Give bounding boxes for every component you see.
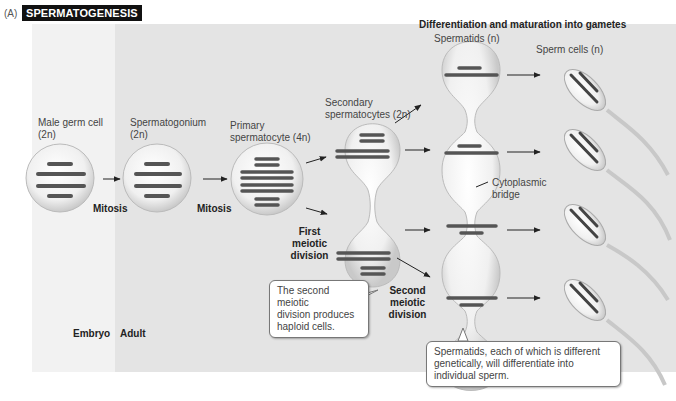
section-title: Differentiation and maturation into game… bbox=[419, 19, 626, 31]
spermatogonium-cell bbox=[123, 144, 191, 212]
label-spermatids: Spermatids (n) bbox=[434, 33, 500, 45]
label-line: meiotic bbox=[287, 238, 332, 250]
label-line: spermatocyte (4n) bbox=[230, 132, 311, 144]
label-line: First bbox=[287, 226, 332, 238]
label-line: bridge bbox=[492, 189, 546, 201]
sperm-cells bbox=[557, 62, 670, 385]
callout-second-division: The second meiotic division produces hap… bbox=[269, 280, 369, 338]
label-mitosis-2: Mitosis bbox=[197, 203, 231, 215]
label-line: (2n) bbox=[130, 129, 206, 141]
arrow-meiosis1-lower bbox=[306, 208, 327, 214]
callout-line: The second meiotic bbox=[277, 285, 361, 309]
label-spermatogonium: Spermatogonium (2n) bbox=[130, 117, 206, 141]
male-germ-cell bbox=[26, 144, 94, 212]
label-line: Spermatogonium bbox=[130, 117, 206, 129]
arrow-meiosis2-d bbox=[397, 258, 430, 277]
label-male-germ-cell: Male germ cell (2n) bbox=[38, 117, 103, 141]
label-adult: Adult bbox=[120, 328, 146, 340]
label-line: division bbox=[385, 309, 430, 321]
label-line: Secondary bbox=[325, 97, 411, 109]
label-line: Primary bbox=[230, 120, 311, 132]
callout-line: genetically, will differentiate into bbox=[434, 358, 613, 370]
callout-line: Spermatids, each of which is different bbox=[434, 346, 613, 358]
label-line: Male germ cell bbox=[38, 117, 103, 129]
spermatids-cells bbox=[442, 42, 500, 391]
label-cytoplasmic-bridge: Cytoplasmic bridge bbox=[492, 177, 546, 201]
label-secondary-spermatocytes: Secondary spermatocytes (2n) bbox=[325, 97, 411, 121]
label-primary-spermatocyte: Primary spermatocyte (4n) bbox=[230, 120, 311, 144]
primary-spermatocyte-cell bbox=[231, 143, 303, 215]
label-line: Second bbox=[385, 285, 430, 297]
label-embryo: Embryo bbox=[73, 328, 110, 340]
label-first-meiotic-division: First meiotic division bbox=[287, 226, 332, 262]
label-line: meiotic bbox=[385, 297, 430, 309]
label-sperm-cells: Sperm cells (n) bbox=[536, 44, 603, 56]
label-line: Cytoplasmic bbox=[492, 177, 546, 189]
label-line: (2n) bbox=[38, 129, 103, 141]
label-line: spermatocytes (2n) bbox=[325, 109, 411, 121]
arrow-meiosis1-upper bbox=[306, 157, 326, 163]
sperm-cell-1 bbox=[557, 62, 668, 175]
callout-line: individual sperm. bbox=[434, 370, 613, 382]
label-mitosis-1: Mitosis bbox=[93, 203, 127, 215]
secondary-spermatocytes-cells bbox=[337, 124, 400, 287]
callout-line: division produces bbox=[277, 309, 361, 321]
label-second-meiotic-division: Second meiotic division bbox=[385, 285, 430, 321]
callout-line: haploid cells. bbox=[277, 321, 361, 333]
callout-spermatids: Spermatids, each of which is different g… bbox=[426, 341, 621, 387]
label-line: division bbox=[287, 250, 332, 262]
